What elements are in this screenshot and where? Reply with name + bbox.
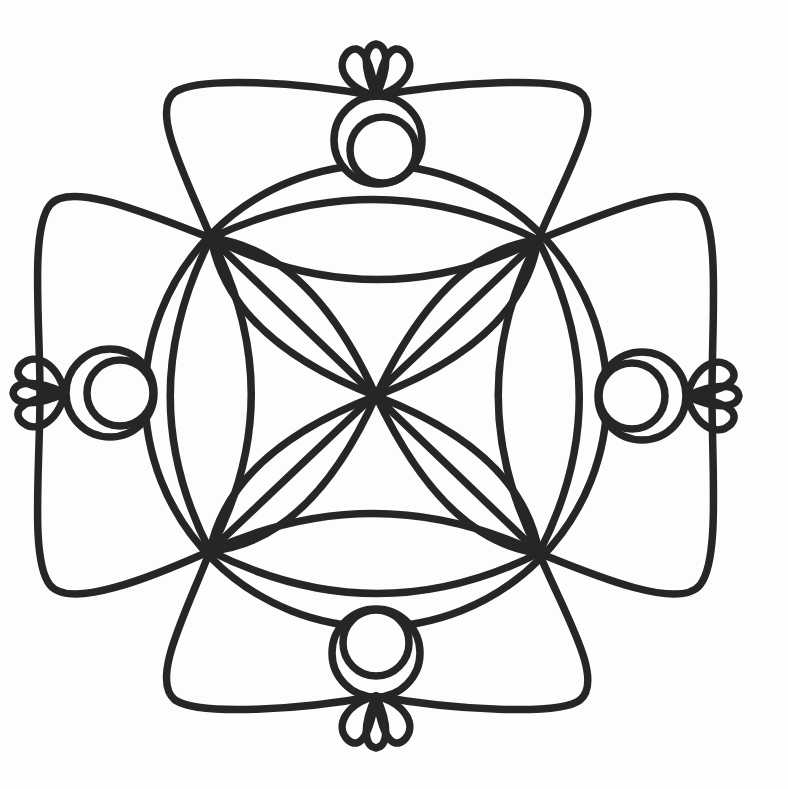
mandala-drawing — [0, 0, 788, 789]
lens-arc — [211, 199, 538, 240]
shell-icon — [342, 696, 410, 748]
ornament-top — [334, 44, 422, 184]
lens-arc — [538, 240, 579, 553]
ornament-left — [13, 349, 154, 437]
lens-arc — [210, 551, 539, 594]
ornament-right — [598, 352, 739, 440]
shell-icon — [342, 44, 410, 96]
ornament-bottom — [332, 609, 420, 748]
mandala-coloring-page — [0, 0, 788, 789]
